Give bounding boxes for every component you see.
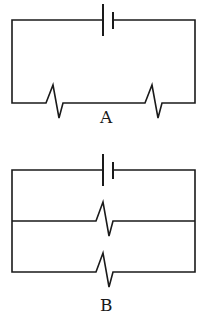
circuit-diagram-canvas: A B <box>0 0 210 327</box>
circuit-b-middle-branch <box>12 202 195 236</box>
circuit-b-outer-wire <box>12 170 195 287</box>
circuit-b: B <box>12 154 195 315</box>
circuit-a: A <box>12 4 195 127</box>
circuit-a-label: A <box>99 107 113 127</box>
circuit-b-label: B <box>100 295 113 315</box>
